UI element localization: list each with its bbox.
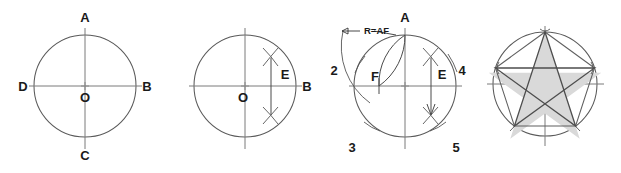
label-point-c: C bbox=[80, 148, 90, 163]
label-point-d: D bbox=[18, 79, 27, 94]
label-point-a: A bbox=[400, 10, 410, 25]
panel-step-2-bisect-radius-ob: O B E bbox=[160, 0, 325, 173]
tick-point-3 bbox=[364, 122, 380, 131]
pentagon-construction-figure: A B C D O O B E bbox=[0, 0, 621, 173]
label-division-point-2: 2 bbox=[330, 63, 337, 78]
arc-radius-af-to-point-2 bbox=[379, 35, 405, 86]
panel-step-1-circle-with-diameters: A B C D O bbox=[0, 0, 160, 173]
label-point-o-center: O bbox=[80, 90, 90, 105]
panel-step-4-completed-pentagram bbox=[465, 0, 621, 173]
label-point-f: F bbox=[371, 69, 379, 84]
label-point-b: B bbox=[142, 79, 151, 94]
label-point-e: E bbox=[438, 67, 447, 82]
label-point-o-center: O bbox=[238, 90, 248, 105]
arc-sweep-left-outer bbox=[341, 31, 370, 103]
annotation-radius-equals-af: R=AF bbox=[364, 25, 389, 36]
label-point-e-midpoint: E bbox=[281, 67, 290, 82]
tick-point-4 bbox=[448, 54, 457, 72]
label-division-point-3: 3 bbox=[348, 140, 355, 155]
panel-step-3-step-off-pentagon-points: R=AF A F E 2 3 4 5 bbox=[320, 0, 480, 173]
label-division-point-5: 5 bbox=[452, 140, 459, 155]
label-point-a: A bbox=[80, 10, 90, 25]
label-point-b: B bbox=[302, 79, 311, 94]
arc-from-a-to-f bbox=[379, 35, 405, 86]
